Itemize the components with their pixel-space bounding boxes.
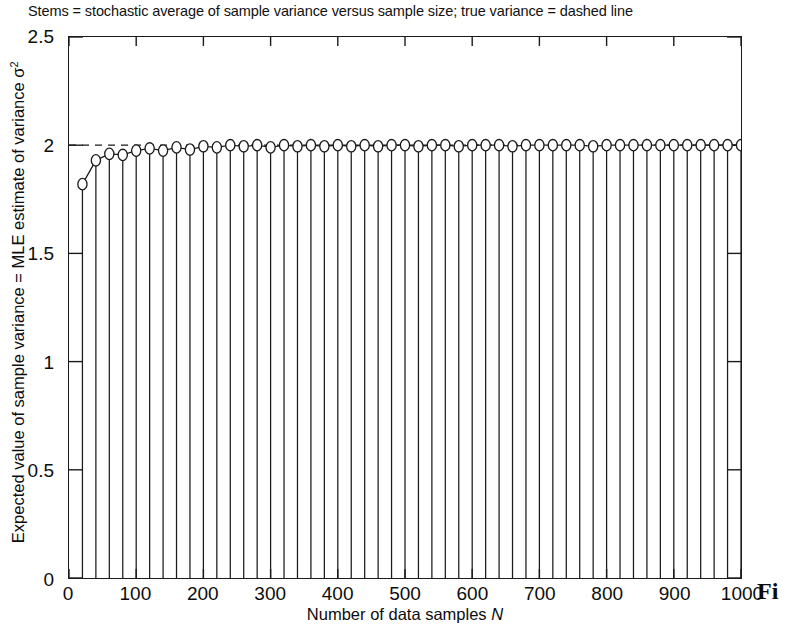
data-point-marker: [642, 140, 651, 151]
data-point-marker: [575, 140, 584, 151]
data-point-marker: [615, 140, 624, 151]
data-point-marker: [710, 140, 719, 151]
plot-inner: [69, 37, 741, 578]
x-tick-label: 500: [389, 583, 421, 605]
data-point-marker: [494, 140, 503, 151]
data-point-marker: [145, 143, 154, 154]
x-axis-title: Number of data samples N: [68, 605, 742, 624]
data-point-marker: [333, 140, 342, 151]
data-point-marker: [468, 140, 477, 151]
data-point-marker: [387, 140, 396, 151]
data-point-marker: [669, 140, 678, 151]
data-point-marker: [683, 140, 692, 151]
y-tick-label: 1.5: [28, 244, 54, 263]
data-point-marker: [535, 140, 544, 151]
x-tick-label: 300: [254, 583, 286, 605]
data-point-marker: [132, 145, 141, 156]
data-point-marker: [400, 140, 409, 151]
data-point-marker: [374, 141, 383, 152]
data-point-marker: [347, 141, 356, 152]
data-point-marker: [589, 141, 598, 152]
data-point-marker: [266, 142, 275, 153]
data-point-marker: [723, 140, 732, 151]
y-tick-label: 0.5: [28, 461, 54, 480]
data-point-marker: [696, 140, 705, 151]
data-point-markers: [78, 140, 741, 190]
data-point-marker: [293, 141, 302, 152]
data-point-marker: [118, 149, 127, 160]
y-tick-label: 2.5: [28, 27, 54, 46]
data-point-marker: [78, 178, 87, 189]
plot-canvas: [69, 37, 741, 578]
data-point-marker: [239, 141, 248, 152]
data-point-marker: [105, 148, 114, 159]
data-point-marker: [185, 144, 194, 155]
data-point-marker: [454, 141, 463, 152]
data-point-marker: [226, 140, 235, 151]
stem-lines: [82, 145, 741, 578]
data-point-marker: [199, 141, 208, 152]
data-point-marker: [212, 142, 221, 153]
y-axis-title: Expected value of sample variance = MLE …: [8, 37, 29, 567]
data-point-marker: [736, 140, 741, 151]
data-point-marker: [441, 140, 450, 151]
x-tick-label: 200: [187, 583, 219, 605]
x-tick-label: 700: [524, 583, 556, 605]
x-axis-tick-labels: 01002003004005006007008009001000: [68, 583, 742, 607]
data-point-marker: [656, 140, 665, 151]
y-tick-label: 0: [43, 570, 54, 589]
data-point-marker: [629, 140, 638, 151]
data-point-marker: [360, 140, 369, 151]
x-tick-label: 900: [659, 583, 691, 605]
data-point-marker: [306, 140, 315, 151]
data-point-marker: [548, 140, 557, 151]
data-point-marker: [602, 140, 611, 151]
y-tick-label: 2: [43, 135, 54, 154]
data-point-marker: [158, 145, 167, 156]
chart-title: Stems = stochastic average of sample var…: [28, 0, 788, 22]
figure-caption-fragment: Fi: [757, 578, 789, 604]
y-tick-label: 1: [43, 352, 54, 371]
data-point-marker: [562, 140, 571, 151]
data-point-marker: [253, 140, 262, 151]
data-point-marker: [414, 141, 423, 152]
data-point-marker: [427, 140, 436, 151]
data-point-marker: [508, 141, 517, 152]
data-point-marker: [521, 140, 530, 151]
data-point-marker: [279, 140, 288, 151]
x-tick-label: 100: [120, 583, 152, 605]
data-point-marker: [172, 142, 181, 153]
plot-area: [68, 36, 742, 579]
x-tick-label: 600: [457, 583, 489, 605]
series-line: [82, 145, 741, 184]
data-point-marker: [91, 155, 100, 166]
x-tick-label: 400: [322, 583, 354, 605]
x-tick-label: 0: [63, 583, 74, 605]
figure-stem-plot: Stems = stochastic average of sample var…: [0, 0, 789, 628]
x-tick-label: 800: [591, 583, 623, 605]
data-point-marker: [320, 141, 329, 152]
data-point-marker: [481, 140, 490, 151]
